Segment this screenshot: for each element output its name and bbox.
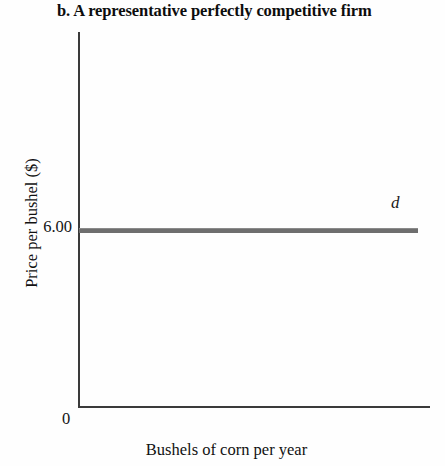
figure-panel: b. A representative perfectly competitiv… xyxy=(0,0,445,466)
demand-curve-label-d: d xyxy=(391,193,400,213)
y-axis-line xyxy=(78,32,80,408)
x-axis-line xyxy=(78,406,430,408)
demand-curve-d xyxy=(79,228,418,233)
x-axis-title: Bushels of corn per year xyxy=(0,440,445,460)
y-axis-title: Price per bushel ($) xyxy=(22,128,42,318)
chart-title: b. A representative perfectly competitiv… xyxy=(57,0,445,21)
origin-label: 0 xyxy=(58,409,74,429)
